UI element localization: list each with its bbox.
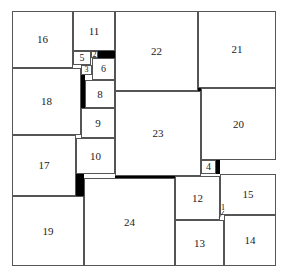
square-label: 11 [89, 26, 100, 37]
square-2: 2 [91, 51, 98, 58]
square-label: 5 [80, 53, 85, 63]
square-18: 18 [12, 68, 81, 135]
square-label: 13 [194, 238, 205, 249]
square-label: 3 [85, 66, 89, 74]
square-4: 4 [201, 160, 216, 174]
square-3: 3 [81, 65, 92, 75]
square-11: 11 [73, 11, 115, 51]
square-label: 8 [97, 89, 103, 100]
square-15: 15 [220, 174, 276, 215]
square-17: 17 [12, 135, 76, 196]
gap-filler [216, 160, 220, 174]
square-13: 13 [175, 220, 224, 266]
square-label: 12 [192, 193, 203, 204]
square-label: 18 [41, 96, 52, 107]
gap-filler [98, 51, 115, 58]
square-5: 5 [73, 51, 91, 65]
square-1-leader-line [216, 210, 226, 220]
square-label: 15 [243, 189, 254, 200]
square-label: 10 [90, 151, 101, 162]
square-14: 14 [224, 215, 276, 266]
square-label: 6 [101, 64, 106, 74]
square-21: 21 [198, 11, 276, 88]
square-16: 16 [12, 11, 73, 68]
square-label: 23 [153, 128, 164, 139]
square-label: 9 [95, 118, 101, 129]
square-20: 20 [201, 88, 276, 160]
square-6: 6 [92, 58, 115, 80]
square-8: 8 [85, 80, 115, 108]
square-label: 14 [245, 235, 256, 246]
square-23: 23 [115, 91, 201, 176]
gap-filler [76, 174, 84, 196]
square-24: 24 [84, 178, 175, 266]
square-19: 19 [12, 196, 84, 266]
square-label: 21 [232, 44, 243, 55]
square-label: 16 [37, 34, 48, 45]
square-label: 4 [206, 162, 211, 172]
square-label: 19 [43, 226, 54, 237]
square-22: 22 [115, 11, 198, 91]
square-10: 10 [76, 138, 115, 174]
square-12: 12 [175, 176, 220, 220]
square-label: 22 [151, 46, 162, 57]
square-label: 17 [39, 160, 50, 171]
square-label: 20 [233, 119, 244, 130]
square-label: 24 [124, 217, 135, 228]
square-9: 9 [81, 108, 115, 138]
